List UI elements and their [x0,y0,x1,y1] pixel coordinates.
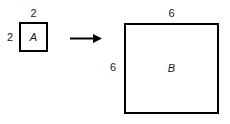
square-b-left-dimension-label: 6 [106,62,120,73]
arrow-right-icon [69,31,103,46]
square-a-left-dimension-label: 2 [4,32,16,43]
square-b-name-label: B [124,63,219,74]
diagram-canvas: 2 2 A 6 6 B [0,0,230,124]
square-a-top-dimension-label: 2 [19,8,48,19]
square-b-top-dimension-label: 6 [124,8,219,19]
square-a-name-label: A [19,32,48,43]
